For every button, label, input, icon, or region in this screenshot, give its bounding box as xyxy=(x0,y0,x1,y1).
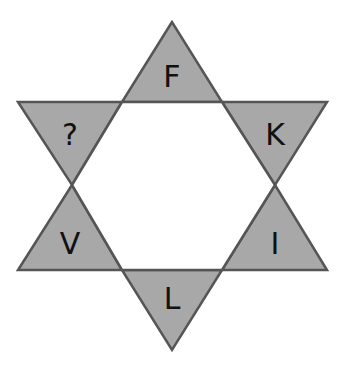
label-upper-left: ? xyxy=(62,117,78,152)
label-top: F xyxy=(163,59,180,94)
star-diagram: F K I L V ? xyxy=(0,0,349,372)
label-upper-right: K xyxy=(265,117,286,152)
label-lower-right: I xyxy=(271,226,280,261)
label-lower-left: V xyxy=(60,226,81,261)
label-bottom: L xyxy=(164,281,181,316)
